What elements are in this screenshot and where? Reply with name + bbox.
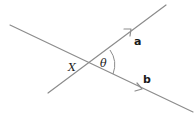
vector-b-label: b bbox=[143, 73, 151, 86]
intersection-label: X bbox=[67, 61, 77, 74]
vector-a-label: a bbox=[134, 35, 141, 48]
vector-diagram: a b X θ bbox=[0, 0, 195, 116]
angle-arc bbox=[110, 50, 115, 74]
angle-label: θ bbox=[100, 57, 107, 70]
vector-b-arrowhead bbox=[135, 83, 142, 91]
